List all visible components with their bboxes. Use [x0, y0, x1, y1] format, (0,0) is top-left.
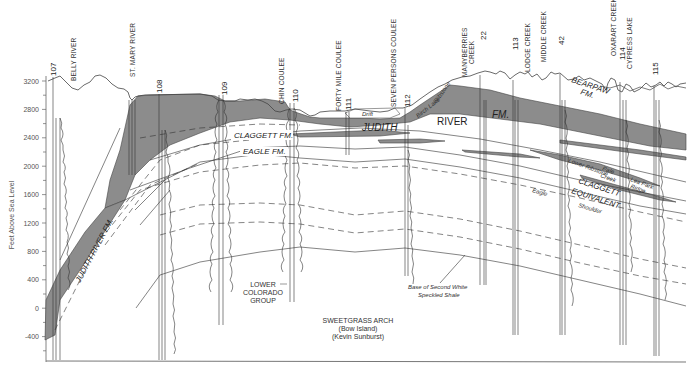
- well-42: 42: [557, 36, 566, 45]
- label-drift: Drift: [362, 111, 373, 117]
- place-lodge-creek: LODGE CREEK: [524, 22, 531, 72]
- label-eagle-fm: EAGLE FM.: [243, 147, 286, 156]
- y-tick-2000: 2000: [23, 163, 39, 170]
- well-107: 107: [49, 62, 58, 76]
- label-fm: FM.: [492, 109, 509, 120]
- y-tick-2400: 2400: [23, 134, 39, 141]
- well-110: 110: [291, 89, 300, 102]
- label-group: GROUP: [250, 297, 276, 304]
- place-manyberries-creek-2: CREEK: [468, 40, 475, 64]
- y-tick-1200: 1200: [23, 220, 39, 227]
- baseline: [46, 361, 686, 362]
- note-kevin-sunburst: (Kevin Sunburst): [332, 333, 384, 341]
- y-tick-minus-400: -400: [25, 333, 39, 340]
- well-112: 112: [403, 94, 412, 107]
- y-tick-400: 400: [27, 276, 39, 283]
- y-axis: 3200 2800 2400 2000 1600 1200 800 400 0 …: [8, 76, 46, 362]
- label-colorado: COLORADO: [243, 289, 284, 296]
- label-lower: LOWER: [250, 281, 276, 288]
- y-tick-800: 800: [27, 248, 39, 255]
- label-base-second-white: Base of Second White: [408, 284, 468, 290]
- place-cypress-lake: CYPRESS LAKE: [626, 17, 633, 69]
- cross-section-diagram: 3200 2800 2400 2000 1600 1200 800 400 0 …: [0, 0, 696, 375]
- place-chin-coulee: CHIN COULEE: [278, 57, 285, 104]
- y-tick-1600: 1600: [23, 191, 39, 198]
- well-113: 113: [511, 37, 520, 50]
- y-tick-2800: 2800: [23, 106, 39, 113]
- label-judith: JUDITH: [361, 122, 398, 133]
- well-108: 108: [155, 79, 164, 93]
- place-st-mary-river: ST. MARY RIVER: [129, 23, 136, 77]
- place-names: BELLY RIVER ST. MARY RIVER CHIN COULEE F…: [70, 0, 633, 111]
- note-bow-island: (Bow Island): [339, 325, 378, 333]
- well-111: 111: [344, 97, 353, 110]
- label-eagle: Eagle: [532, 187, 549, 197]
- well-22: 22: [479, 31, 488, 40]
- place-seven-persons-coulee: SEVEN PERSONS COULEE: [390, 18, 397, 107]
- place-oxarart-creek: OXARART CREEK: [610, 0, 617, 56]
- y-tick-3200: 3200: [23, 78, 39, 85]
- place-middle-creek: MIDDLE CREEK: [540, 10, 547, 62]
- place-forty-mile-coulee: FORTY MILE COULEE: [335, 40, 342, 111]
- label-speckled-shale: Speckled Shale: [418, 292, 460, 298]
- place-manyberries-creek: MANYBERRIES: [461, 27, 468, 77]
- y-axis-title: Feet Above Sea Level: [8, 180, 15, 249]
- y-tick-0: 0: [35, 305, 39, 312]
- well-115: 115: [651, 62, 660, 75]
- arch-note: SWEETGRASS ARCH (Bow Island) (Kevin Sunb…: [323, 317, 394, 341]
- label-river: RIVER: [437, 116, 468, 127]
- place-belly-river: BELLY RIVER: [70, 37, 77, 81]
- note-sweetgrass-arch: SWEETGRASS ARCH: [323, 317, 394, 324]
- well-109: 109: [220, 81, 229, 95]
- label-claggett-fm: CLAGGETT FM.: [234, 131, 293, 140]
